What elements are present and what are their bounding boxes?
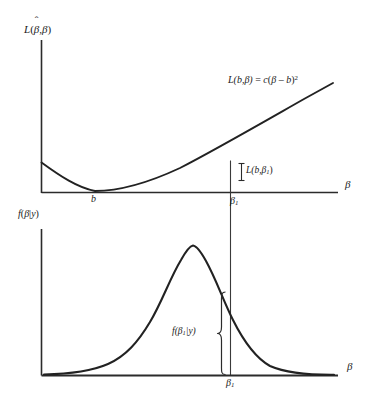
- formula-minus: –: [276, 74, 286, 85]
- ylabel-bot-close-paren: ): [36, 208, 39, 219]
- top-plot-x-axis-label: β: [345, 179, 350, 190]
- figure-canvas: [0, 0, 365, 409]
- bottom-plot-y-axis-label: f(β|y): [18, 209, 39, 219]
- ylabel-top-close-paren: ): [48, 23, 52, 35]
- beta1-bot-subscript: 1: [231, 381, 234, 388]
- formula-lhs: L(b,β): [228, 74, 253, 85]
- beta1-top-subscript: 1: [235, 199, 238, 206]
- top-plot-axes: [42, 40, 339, 193]
- top-plot-tick-label-b: b: [91, 194, 96, 204]
- loss-value-bracket-label: L(b,β1): [246, 166, 273, 176]
- fb1y-main: f(β: [172, 326, 183, 336]
- posterior-density-curve: [44, 246, 334, 375]
- figure-root: L(ˆβ,β) L(b,β) = c(β – b)2 b β1 L(b,β1) …: [0, 0, 365, 409]
- bottom-plot-tick-label-beta1: β1: [226, 378, 234, 389]
- hat-accent-icon: ˆ: [35, 15, 39, 26]
- top-plot-y-axis-label: L(ˆβ,β): [24, 24, 51, 35]
- density-value-brace: [218, 292, 226, 375]
- density-value-brace-label: f(β1|y): [172, 327, 196, 337]
- bottom-plot-axes: [42, 229, 339, 376]
- beta-hat-group: ˆβ: [34, 24, 39, 35]
- bottom-plot-x-axis-label: β: [347, 361, 352, 372]
- formula-equals: =: [253, 74, 264, 85]
- loss-parabola-curve: [42, 83, 334, 191]
- loss-function-formula-annotation: L(b,β) = c(β – b)2: [228, 75, 298, 85]
- loss-value-bracket: [239, 164, 245, 181]
- Lbb1-main: L(b,β: [246, 165, 266, 175]
- fb1y-rest: |y): [186, 326, 196, 336]
- Lbb1-close: ): [270, 165, 273, 175]
- formula-exponent: 2: [294, 74, 297, 81]
- top-plot-tick-label-beta1: β1: [230, 196, 238, 207]
